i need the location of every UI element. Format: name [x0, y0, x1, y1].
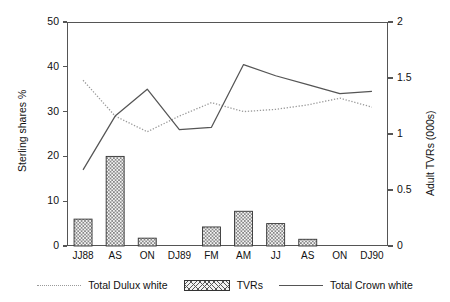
bar	[106, 156, 124, 246]
solid-line-icon	[279, 285, 323, 286]
bar-series-tvrs	[74, 156, 317, 246]
bar	[299, 239, 317, 246]
line-series-group	[83, 65, 372, 170]
legend-item: Total Dulux white	[37, 279, 167, 291]
chart-legend: Total Dulux whiteTVRsTotal Crown white	[0, 276, 450, 294]
bar	[74, 219, 92, 246]
legend-label: Total Crown white	[330, 279, 413, 291]
legend-label: Total Dulux white	[88, 279, 167, 291]
bar	[202, 227, 220, 246]
bar	[138, 238, 156, 246]
chart-plot-svg	[0, 0, 450, 302]
dotted-line-icon	[37, 285, 81, 286]
bar	[235, 211, 253, 246]
legend-label: TVRs	[237, 279, 263, 291]
bar	[267, 224, 285, 246]
chart-figure: Sterling shares % Adult TVRs (000s) 0102…	[0, 0, 450, 302]
legend-item: Total Crown white	[279, 279, 413, 291]
hatched-bar-icon	[184, 280, 230, 291]
line-series-total-crown-white	[83, 65, 372, 170]
legend-item: TVRs	[184, 279, 263, 291]
